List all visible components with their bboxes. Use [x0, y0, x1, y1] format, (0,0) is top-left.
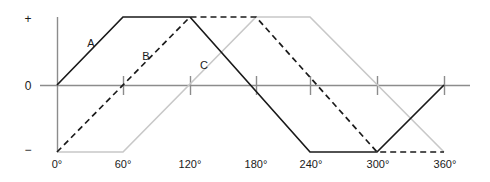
x-axis-label-240: 240°: [300, 158, 323, 170]
curve-label-b: B: [142, 50, 149, 62]
curve-label-c: C: [200, 59, 208, 71]
curve-label-a: A: [87, 37, 94, 49]
y-axis-minus-label: −: [24, 143, 31, 157]
waveform-chart: + 0 − 0° 60° 120° 180° 240° 300° 360° A …: [0, 0, 490, 182]
x-axis-label-60: 60°: [115, 158, 132, 170]
x-axis-label-120: 120°: [179, 158, 202, 170]
curve-a-path: [57, 17, 444, 152]
chart-plot-area: [0, 0, 490, 182]
x-axis-label-360: 360°: [434, 158, 457, 170]
x-axis-label-300: 300°: [367, 158, 390, 170]
x-axis-label-0: 0°: [52, 158, 63, 170]
y-axis-zero-label: 0: [25, 79, 32, 93]
y-axis-plus-label: +: [24, 12, 31, 26]
x-axis-label-180: 180°: [245, 158, 268, 170]
